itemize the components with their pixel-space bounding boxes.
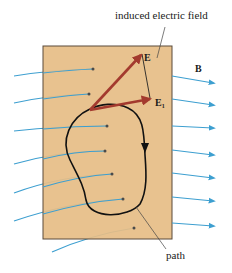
out-line-1: [172, 76, 213, 83]
E-label: E: [144, 52, 151, 63]
path-label: path: [166, 249, 185, 261]
out-line-3: [172, 126, 213, 128]
E1-subscript: 1: [162, 103, 165, 109]
out-line-7: [172, 223, 213, 226]
conducting-plate: [43, 46, 172, 239]
out-line-5: [172, 173, 213, 178]
outgoing-field-lines: [172, 76, 213, 226]
diagram-canvas: induced electric field E E1 B path: [0, 0, 232, 273]
B-label: B: [195, 63, 202, 74]
induced-field-label: induced electric field: [115, 9, 208, 21]
out-line-6: [172, 197, 213, 201]
out-line-4: [172, 150, 213, 155]
induced-electric-field-diagram: induced electric field E E1 B path: [0, 0, 232, 273]
out-line-2: [172, 99, 213, 105]
